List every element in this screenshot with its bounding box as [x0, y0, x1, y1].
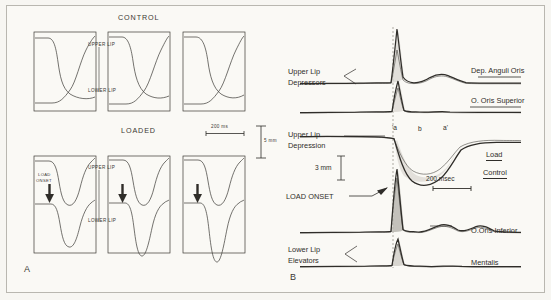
loaded-upper-lip-label: UPPER LIP: [88, 165, 115, 170]
load-onset-arrow-2: [118, 184, 127, 203]
control-lower-lip-label: LOWER LIP: [88, 88, 116, 93]
mentalis-label: Mentalis: [471, 258, 499, 267]
load-onset-arrow-3: [193, 184, 202, 203]
upper-lip-depression-line2: Depression: [288, 141, 325, 150]
dep-anguli-oris-label: Dep. Anguli Oris: [471, 66, 524, 75]
panel-b-load-onset-arrowhead: [377, 187, 388, 195]
panel-a-time-scale-bar: [206, 131, 244, 136]
phase-marker-a-prime: a': [443, 124, 448, 131]
panel-a-displacement-scale-label: 5 mm: [264, 138, 277, 143]
loaded-lower-lip-label: LOWER LIP: [88, 218, 116, 223]
panel-b-time-scale-label: 200 msec: [426, 175, 455, 182]
panel-a-time-scale-label: 200 ms: [211, 124, 228, 129]
legend-control: Control: [483, 168, 507, 179]
control-trace-box3: [184, 36, 244, 104]
legend-load: Load: [486, 150, 502, 161]
load-onset-label-line2: ONSET: [36, 178, 52, 183]
lower-lip-elevators-line2: Elevators: [288, 256, 319, 265]
panel-b-displacement-scale-bar: [337, 156, 345, 180]
panel-a-control-heading: CONTROL: [118, 13, 159, 22]
lower-lip-elevators-leader: [345, 246, 357, 262]
o-oris-inferior-label: O.Oris Inferior: [471, 226, 517, 235]
phase-marker-b: b: [418, 125, 422, 132]
panel-a-letter: A: [24, 264, 30, 274]
panel-a-control-boxes: [34, 32, 245, 111]
control-trace-box2: [109, 36, 169, 104]
figure-root: CONTROL LOADED UPPER LIP LOWER LIP UPPER…: [0, 0, 551, 300]
loaded-trace-box2: [109, 158, 169, 256]
load-onset-label-line1: LOAD: [38, 172, 51, 177]
upper-lip-depressors-line2: Depressors: [288, 78, 326, 87]
o-oris-superior-label: O. Oris Superior: [471, 96, 524, 105]
panel-a-loaded-boxes: [34, 156, 245, 253]
lower-lip-elevators-line1: Lower Lip: [288, 245, 320, 254]
trace-dep-anguli-oris: [300, 29, 521, 84]
panel-b-load-onset-label: LOAD ONSET: [286, 192, 334, 201]
figure-graphics: [0, 0, 551, 300]
control-upper-lip-label: UPPER LIP: [88, 42, 115, 47]
control-trace-box1: [35, 36, 95, 103]
upper-lip-depressors-line1: Upper Lip: [288, 67, 320, 76]
upper-lip-depression-line1: Upper Lip: [288, 130, 320, 139]
phase-marker-a: 'a: [392, 124, 397, 131]
loaded-trace-box3: [184, 158, 244, 262]
panel-a-loaded-heading: LOADED: [121, 126, 156, 135]
load-onset-arrow-1: [45, 184, 54, 203]
panel-b-letter: B: [290, 272, 296, 282]
upper-lip-depressors-leader: [344, 69, 356, 84]
panel-b-time-scale-bar: [433, 186, 471, 191]
panel-b-displacement-scale-label: 3 mm: [315, 164, 331, 171]
